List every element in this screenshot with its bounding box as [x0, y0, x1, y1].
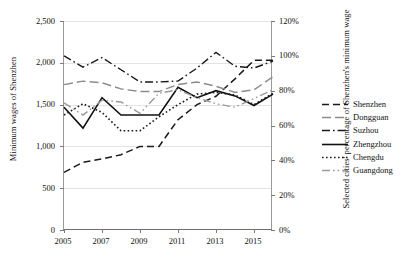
series-line-shenzhen — [64, 60, 273, 172]
legend-label: Guangdong — [353, 164, 393, 177]
x-tick-label: 2011 — [157, 236, 197, 246]
legend-swatch-guangdong — [322, 166, 348, 175]
legend: ShenzhenDongguanSuzhouZhengzhouChengduGu… — [322, 98, 393, 177]
y-tick-label-right: 40% — [279, 155, 315, 165]
y-tick-label-right: 0% — [279, 225, 315, 235]
legend-item-shenzhen[interactable]: Shenzhen — [322, 98, 393, 111]
plot-area — [63, 21, 272, 230]
x-tick-label: 2015 — [233, 236, 273, 246]
y-tick-label-left: 500 — [21, 183, 55, 193]
legend-label: Suzhou — [353, 124, 379, 137]
y-tick-label-left: 1,500 — [21, 99, 55, 109]
figure: Minimum wages of Shenzhen Selected citie… — [0, 0, 413, 275]
legend-swatch-shenzhen — [322, 100, 348, 109]
x-tick-label: 2005 — [43, 236, 83, 246]
legend-swatch-suzhou — [322, 126, 348, 135]
legend-item-chengdu[interactable]: Chengdu — [322, 151, 393, 164]
y-tick-label-right: 20% — [279, 190, 315, 200]
legend-label: Chengdu — [353, 151, 384, 164]
y-tick-label-right: 80% — [279, 85, 315, 95]
legend-label: Dongguan — [353, 111, 388, 124]
legend-label: Shenzhen — [353, 98, 386, 111]
y-tick-label-right: 120% — [279, 16, 315, 26]
legend-swatch-dongguan — [322, 113, 348, 122]
series-line-zhengzhou — [64, 87, 273, 128]
series-line-chengdu — [64, 92, 273, 130]
series-line-dongguan — [64, 77, 273, 93]
legend-item-suzhou[interactable]: Suzhou — [322, 124, 393, 137]
y-axis-left-title: Minimum wages of Shenzhen — [8, 34, 18, 184]
legend-label: Zhengzhou — [353, 138, 391, 151]
y-tick-label-right: 60% — [279, 120, 315, 130]
x-tick-label: 2013 — [195, 236, 235, 246]
y-tick-right — [271, 230, 275, 231]
legend-swatch-chengdu — [322, 153, 348, 162]
y-tick-label-left: 2,000 — [21, 57, 55, 67]
legend-item-dongguan[interactable]: Dongguan — [322, 111, 393, 124]
legend-item-zhengzhou[interactable]: Zhengzhou — [322, 138, 393, 151]
legend-item-guangdong[interactable]: Guangdong — [322, 164, 393, 177]
x-tick-label: 2009 — [119, 236, 159, 246]
series-lines — [64, 21, 273, 230]
y-tick-label-left: 1,000 — [21, 141, 55, 151]
y-tick-label-left: 2,500 — [21, 16, 55, 26]
series-line-suzhou — [64, 52, 273, 82]
legend-swatch-zhengzhou — [322, 140, 348, 149]
y-tick-label-left: 0 — [21, 225, 55, 235]
x-tick-label: 2007 — [81, 236, 121, 246]
y-tick-label-right: 100% — [279, 50, 315, 60]
